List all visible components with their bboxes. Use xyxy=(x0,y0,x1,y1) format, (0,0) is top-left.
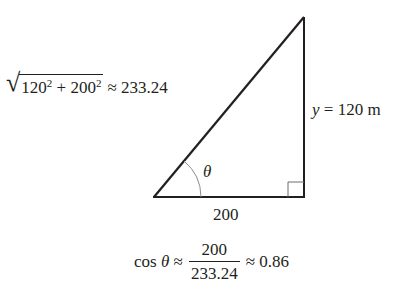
cos-function: cos xyxy=(134,252,157,272)
cosine-formula: cos θ ≈ 200 233.24 ≈ 0.86 xyxy=(134,240,289,284)
approx-sign: ≈ xyxy=(107,78,116,97)
hypotenuse-line xyxy=(154,17,304,197)
vertical-side-label: y = 120 m xyxy=(312,101,381,118)
radicand-b: 200 xyxy=(70,78,96,97)
radical-sign: √ xyxy=(6,70,20,96)
exponent-a: 2 xyxy=(47,77,53,89)
approx-sign-2: ≈ xyxy=(246,252,255,272)
horizontal-side-label: 200 xyxy=(213,206,239,223)
hypotenuse-number: 233.24 xyxy=(121,78,168,97)
fraction: 200 233.24 xyxy=(189,240,240,284)
variable-y: y xyxy=(312,100,320,119)
angle-label: θ xyxy=(203,163,211,180)
approx-sign-1: ≈ xyxy=(174,252,183,272)
height-value: 120 m xyxy=(338,100,381,119)
denominator: 233.24 xyxy=(189,261,240,284)
hypotenuse-value: ≈ 233.24 xyxy=(107,74,167,98)
exponent-b: 2 xyxy=(96,77,102,89)
numerator: 200 xyxy=(200,240,230,261)
radicand-a: 120 xyxy=(21,78,47,97)
equals-sign: = xyxy=(324,100,334,119)
cosine-result: 0.86 xyxy=(259,252,289,272)
right-angle-marker xyxy=(288,182,304,197)
angle-arc xyxy=(184,161,201,197)
plus-sign: + xyxy=(57,78,67,97)
radicand: 1202 + 2002 xyxy=(19,74,103,98)
formula-theta: θ xyxy=(161,252,169,272)
hypotenuse-label: √ 1202 + 2002 ≈ 233.24 xyxy=(6,74,168,98)
